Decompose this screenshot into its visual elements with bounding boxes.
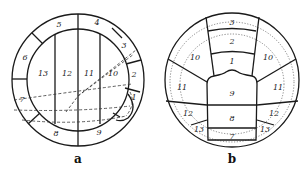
- label-13: 13: [38, 69, 48, 78]
- label-11: 11: [84, 69, 94, 78]
- label-b-13-right: 13: [260, 125, 270, 134]
- label-b-2: 2: [228, 37, 234, 46]
- label-8: 8: [53, 129, 58, 138]
- label-4: 4: [93, 18, 99, 27]
- label-b-12-left: 12: [183, 109, 193, 118]
- label-b-11-right: 11: [273, 83, 283, 92]
- divider-left-10-11: [168, 59, 207, 82]
- label-10: 10: [108, 69, 118, 78]
- label-9: 9: [96, 128, 101, 137]
- divider-5-6: [32, 33, 43, 44]
- label-3: 3: [121, 41, 126, 50]
- segment-diagram: 1 2 3 4 5 6 7 8 9 10 11 12 13 a: [0, 0, 308, 169]
- label-b-13-left: 13: [194, 125, 204, 134]
- outer-sphere: [165, 13, 299, 147]
- divider-2-3: [126, 60, 141, 64]
- label-b-3: 3: [229, 18, 234, 27]
- panel-a: 1 2 3 4 5 6 7 8 9 10 11 12 13 a: [12, 14, 144, 166]
- dashed-line-1: [14, 84, 132, 100]
- divider-right-11-12: [257, 101, 298, 105]
- label-6: 6: [22, 53, 27, 62]
- left-column-edge: [206, 17, 214, 76]
- label-7: 7: [19, 95, 25, 104]
- panel-b: 3 2 1 9 8 7 10 10 11 11 12 12 13 13 b: [165, 13, 299, 166]
- dashed-line-2: [14, 106, 130, 111]
- label-b-10-left: 10: [190, 53, 200, 62]
- divider-left-11-12: [166, 101, 207, 105]
- label-b-10-right: 10: [263, 53, 273, 62]
- label-b-11-left: 11: [177, 83, 187, 92]
- label-b-8: 8: [229, 114, 234, 123]
- label-1: 1: [131, 93, 136, 102]
- divider-2-1: [211, 52, 254, 55]
- divider-7-8: [28, 113, 40, 124]
- divider-right-10-11: [257, 59, 296, 82]
- label-5: 5: [56, 20, 61, 29]
- divider-3-2: [208, 29, 256, 32]
- label-b-12-right: 12: [269, 109, 279, 118]
- label-b-9: 9: [229, 89, 234, 98]
- label-b-1: 1: [229, 57, 234, 66]
- caption-a: a: [74, 152, 82, 166]
- label-12: 12: [62, 69, 72, 78]
- caption-b: b: [228, 152, 236, 166]
- label-2: 2: [130, 70, 136, 79]
- dashed-line-4: [66, 50, 136, 112]
